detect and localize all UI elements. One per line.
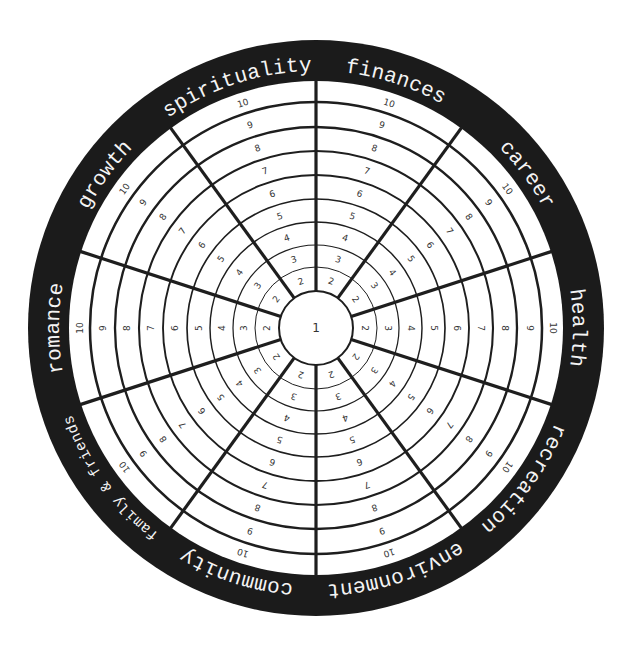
score-number: 4: [406, 325, 416, 331]
sector-label-romance: romance: [41, 281, 68, 376]
score-number: 3: [383, 325, 393, 331]
score-number: 8: [122, 325, 132, 331]
score-number: 3: [239, 325, 249, 331]
score-number: 10: [75, 322, 85, 334]
score-number: 2: [262, 325, 272, 331]
score-number: 9: [525, 325, 535, 331]
wheel-of-life-diagram: 2345678910234567891023456789102345678910…: [0, 0, 624, 646]
score-number: 6: [452, 325, 462, 331]
score-number: 10: [548, 322, 558, 334]
score-number: 5: [194, 325, 204, 331]
score-number: 9: [98, 325, 108, 331]
score-number: 7: [476, 325, 486, 331]
center-circle: 1: [279, 291, 353, 365]
score-number: 2: [360, 325, 370, 331]
score-number: 7: [146, 325, 156, 331]
score-number: 4: [217, 325, 227, 331]
score-number: 6: [170, 325, 180, 331]
center-number: 1: [312, 321, 320, 335]
score-number: 5: [429, 325, 439, 331]
score-number: 8: [500, 325, 510, 331]
